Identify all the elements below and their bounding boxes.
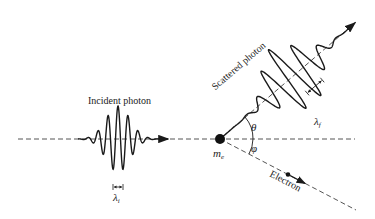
scattered-photon-label: Scattered photon: [209, 40, 267, 92]
electron-label: Electron: [268, 168, 303, 193]
theta-label: θ: [251, 121, 257, 133]
lambda-i-label: λi: [112, 191, 120, 205]
lambda-i-marker: [113, 184, 123, 190]
compton-scattering-diagram: λi Incident photon Scattered photon λf m…: [0, 0, 375, 219]
lambda-f-marker: [305, 78, 324, 96]
incident-photon-wave: [78, 106, 168, 169]
phi-label: φ: [251, 142, 257, 154]
electron-dot: [215, 134, 225, 144]
incident-photon-label: Incident photon: [88, 95, 151, 106]
lambda-f-label: λf: [313, 115, 322, 129]
electron-mass-label: me: [213, 147, 224, 161]
